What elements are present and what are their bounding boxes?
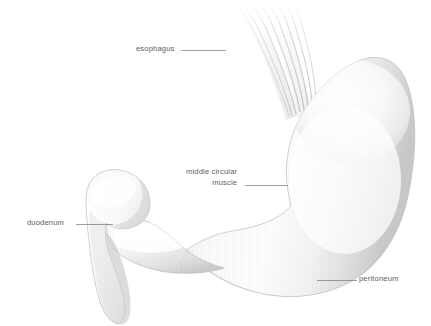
esophagus-structure <box>236 2 316 120</box>
label-middle-circular-muscle-line1: middle circular <box>186 167 237 176</box>
label-middle-circular-muscle-line2: muscle <box>212 178 237 187</box>
label-esophagus: esophagus <box>136 44 175 55</box>
label-duodenum: duodenum <box>27 218 64 229</box>
label-peritoneum: peritoneum <box>359 274 399 285</box>
anatomy-figure: esophagus middle circularmuscle duodenum… <box>0 0 431 326</box>
label-middle-circular-muscle: middle circularmuscle <box>186 167 237 188</box>
